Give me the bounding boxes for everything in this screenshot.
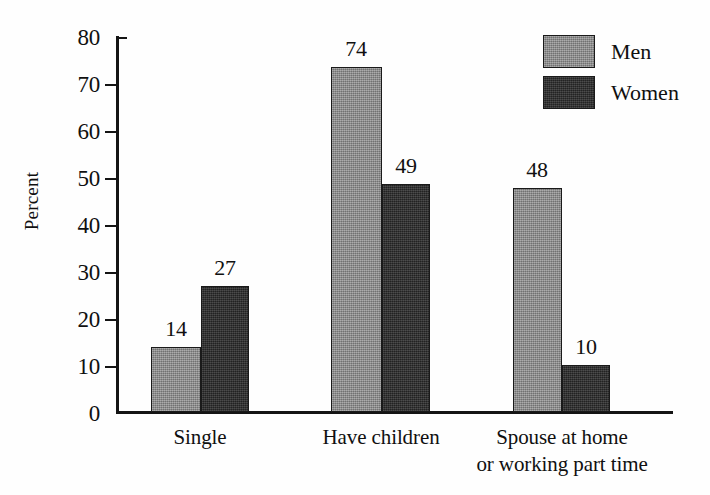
bar-value-spouse-at-home-men: 48 xyxy=(507,159,567,181)
legend-label-men: Men xyxy=(611,39,651,65)
y-axis-line xyxy=(116,36,119,414)
y-tick-label-20: 20 xyxy=(54,308,100,331)
bar-have-children-men xyxy=(331,67,382,412)
bar-single-women xyxy=(201,286,249,412)
legend-swatch-women-icon xyxy=(543,76,595,109)
bar-chart: Percent 80 70 60 50 40 30 20 10 0 14 27 xyxy=(0,0,710,495)
legend-swatch-men-icon xyxy=(543,35,595,68)
legend-item-women: Women xyxy=(543,72,703,113)
y-tick-label-80: 80 xyxy=(54,26,100,49)
bar-value-single-women: 27 xyxy=(195,257,255,279)
y-tick-label-60: 60 xyxy=(54,120,100,143)
x-category-label-spouse-at-home-line1: Spouse at home xyxy=(442,424,682,451)
x-category-label-spouse-at-home: Spouse at home or working part time xyxy=(442,424,682,478)
bar-value-spouse-at-home-women: 10 xyxy=(556,336,616,358)
bar-value-have-children-men: 74 xyxy=(326,38,386,60)
bar-spouse-at-home-men xyxy=(513,188,562,412)
y-tick-label-70: 70 xyxy=(54,73,100,96)
bar-have-children-women xyxy=(382,184,430,412)
y-tick-label-50: 50 xyxy=(54,167,100,190)
legend: Men Women xyxy=(543,31,703,113)
bar-single-men xyxy=(151,347,201,412)
y-tick-label-30: 30 xyxy=(54,261,100,284)
legend-item-men: Men xyxy=(543,31,703,72)
y-tick-label-40: 40 xyxy=(54,214,100,237)
bar-spouse-at-home-women xyxy=(562,365,610,412)
bar-value-have-children-women: 49 xyxy=(376,155,436,177)
y-tick-label-10: 10 xyxy=(54,355,100,378)
x-category-label-spouse-at-home-line2: or working part time xyxy=(442,451,682,478)
y-axis-title: Percent xyxy=(21,151,43,251)
y-tick-label-0: 0 xyxy=(54,402,100,425)
legend-label-women: Women xyxy=(611,80,679,106)
bar-value-single-men: 14 xyxy=(146,318,206,340)
